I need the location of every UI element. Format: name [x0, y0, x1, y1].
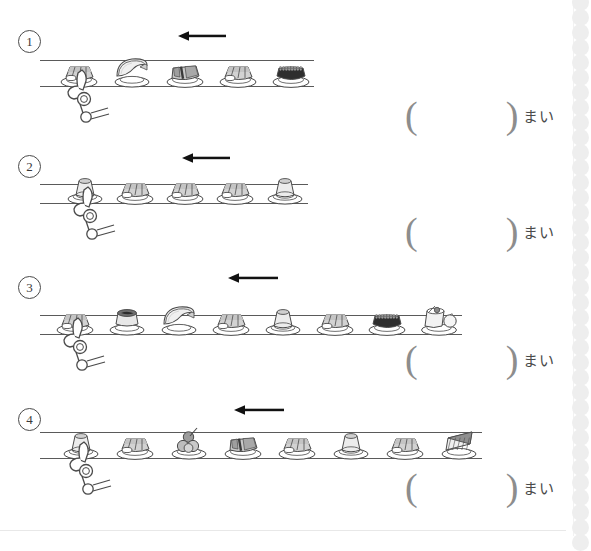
problem-number-4: 4 [18, 408, 41, 431]
answer-blank[interactable]: ()まい [405, 96, 555, 134]
answer-blank[interactable]: ()まい [405, 340, 555, 378]
perforation-dot [572, 414, 589, 431]
belt-direction-arrow [234, 404, 284, 416]
perforation-dot [572, 309, 589, 326]
perforation-dot [572, 189, 589, 206]
answer-close-paren: ) [506, 212, 519, 250]
problem-number-2: 2 [18, 155, 41, 178]
belt-direction-arrow [178, 30, 226, 42]
perforation-dot [572, 369, 589, 386]
perforation-dot [572, 129, 589, 146]
answer-open-paren: ( [405, 212, 418, 250]
answer-unit-label: まい [523, 477, 555, 498]
answer-open-paren: ( [405, 96, 418, 134]
answer-blank[interactable]: ()まい [405, 468, 555, 506]
perforation-dot [572, 84, 589, 101]
perforation-dot [572, 24, 589, 41]
answer-close-paren: ) [506, 468, 519, 506]
page-bottom-rule [0, 530, 566, 531]
perforation-dot [572, 504, 589, 521]
perforation-dot [572, 339, 589, 356]
perforation-dot [572, 534, 589, 551]
perforation-dot [572, 9, 589, 26]
customer-hand [68, 185, 120, 243]
perforation-dot [572, 519, 589, 536]
perforated-edge-decoration [565, 0, 591, 536]
problem-number-3: 3 [18, 276, 41, 299]
perforation-dot [572, 459, 589, 476]
customer-hand [62, 68, 114, 126]
perforation-dot [572, 0, 589, 11]
answer-blank[interactable]: ()まい [405, 212, 555, 250]
perforation-dot [572, 204, 589, 221]
perforation-dot [572, 114, 589, 131]
answer-close-paren: ) [506, 96, 519, 134]
perforation-dot [572, 264, 589, 281]
perforation-dot [572, 354, 589, 371]
answer-unit-label: まい [523, 221, 555, 242]
perforation-dot [572, 174, 589, 191]
answer-unit-label: まい [523, 349, 555, 370]
answer-unit-label: まい [523, 105, 555, 126]
perforation-dot [572, 279, 589, 296]
perforation-dot [572, 429, 589, 446]
answer-open-paren: ( [405, 340, 418, 378]
belt-direction-arrow [182, 152, 230, 164]
perforation-dot [572, 384, 589, 401]
perforation-dot [572, 294, 589, 311]
perforation-dot [572, 54, 589, 71]
perforation-dot [572, 324, 589, 341]
perforation-dot [572, 234, 589, 251]
perforation-dot [572, 39, 589, 56]
perforation-guide-line [573, 0, 574, 536]
answer-open-paren: ( [405, 468, 418, 506]
customer-hand [58, 316, 110, 374]
customer-hand [64, 440, 116, 498]
belt-direction-arrow [228, 272, 278, 284]
problem-number-1: 1 [18, 30, 41, 53]
perforation-dot [572, 474, 589, 491]
perforation-dot [572, 489, 589, 506]
perforation-dot [572, 399, 589, 416]
perforation-dot [572, 219, 589, 236]
perforation-dot [572, 69, 589, 86]
perforation-dot [572, 249, 589, 266]
perforation-dot [572, 144, 589, 161]
perforation-dot [572, 159, 589, 176]
perforation-dot [572, 444, 589, 461]
perforation-dot [572, 99, 589, 116]
answer-close-paren: ) [506, 340, 519, 378]
